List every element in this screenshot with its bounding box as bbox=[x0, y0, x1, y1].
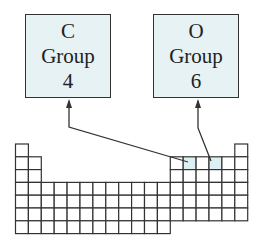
element-cell bbox=[170, 170, 183, 183]
periodic-table-diagram bbox=[0, 0, 262, 246]
element-cell bbox=[209, 195, 222, 208]
element-cell bbox=[80, 195, 93, 208]
element-cell bbox=[183, 195, 196, 208]
element-cell bbox=[106, 221, 119, 234]
element-cell bbox=[16, 182, 29, 195]
element-cell bbox=[67, 208, 80, 221]
oxygen-pointer-arrow bbox=[198, 101, 211, 161]
element-cell bbox=[209, 182, 222, 195]
element-cell bbox=[222, 182, 235, 195]
element-cell bbox=[170, 208, 183, 221]
element-cell bbox=[157, 195, 170, 208]
element-cell bbox=[235, 208, 248, 221]
element-cell bbox=[132, 195, 145, 208]
element-cell bbox=[132, 208, 145, 221]
element-cell bbox=[93, 182, 106, 195]
element-cell bbox=[196, 182, 209, 195]
element-cell bbox=[222, 208, 235, 221]
element-cell bbox=[157, 182, 170, 195]
element-cell bbox=[235, 182, 248, 195]
element-cell bbox=[67, 221, 80, 234]
element-cell bbox=[16, 195, 29, 208]
element-cell bbox=[157, 208, 170, 221]
element-cell bbox=[222, 157, 235, 170]
element-cell bbox=[132, 221, 145, 234]
element-cell bbox=[106, 182, 119, 195]
element-cell bbox=[235, 157, 248, 170]
element-cell bbox=[28, 157, 41, 170]
element-cell bbox=[157, 221, 170, 234]
element-cell bbox=[67, 182, 80, 195]
element-cell bbox=[16, 170, 29, 183]
element-cell bbox=[222, 195, 235, 208]
carbon-arrowhead-icon bbox=[66, 99, 72, 108]
element-cell bbox=[16, 221, 29, 234]
element-cell bbox=[28, 208, 41, 221]
element-cell bbox=[119, 221, 132, 234]
element-cell bbox=[16, 144, 29, 157]
element-cell bbox=[235, 195, 248, 208]
element-cell bbox=[106, 195, 119, 208]
element-cell bbox=[209, 170, 222, 183]
element-cell bbox=[80, 221, 93, 234]
element-cell bbox=[183, 170, 196, 183]
element-cell bbox=[41, 195, 54, 208]
periodic-table-grid bbox=[16, 144, 248, 234]
element-cell bbox=[145, 208, 158, 221]
element-cell bbox=[67, 195, 80, 208]
element-cell bbox=[132, 182, 145, 195]
element-cell bbox=[183, 208, 196, 221]
element-cell bbox=[54, 182, 67, 195]
highlighted-element-cell bbox=[183, 157, 196, 170]
element-cell bbox=[28, 221, 41, 234]
element-cell bbox=[106, 208, 119, 221]
element-cell bbox=[196, 208, 209, 221]
element-cell bbox=[93, 221, 106, 234]
element-cell bbox=[93, 208, 106, 221]
element-cell bbox=[170, 182, 183, 195]
element-cell bbox=[16, 157, 29, 170]
oxygen-arrowhead-icon bbox=[195, 99, 201, 108]
carbon-pointer-arrow bbox=[69, 101, 188, 162]
element-cell bbox=[145, 182, 158, 195]
element-cell bbox=[28, 182, 41, 195]
element-cell bbox=[145, 221, 158, 234]
element-cell bbox=[41, 208, 54, 221]
element-cell bbox=[196, 157, 209, 170]
element-cell bbox=[196, 195, 209, 208]
element-cell bbox=[119, 195, 132, 208]
element-cell bbox=[41, 221, 54, 234]
element-cell bbox=[28, 195, 41, 208]
element-cell bbox=[80, 208, 93, 221]
element-cell bbox=[170, 195, 183, 208]
element-cell bbox=[54, 208, 67, 221]
element-cell bbox=[54, 195, 67, 208]
element-cell bbox=[235, 144, 248, 157]
element-cell bbox=[41, 182, 54, 195]
element-cell bbox=[209, 208, 222, 221]
element-cell bbox=[54, 221, 67, 234]
element-cell bbox=[119, 208, 132, 221]
element-cell bbox=[145, 195, 158, 208]
element-cell bbox=[80, 182, 93, 195]
element-cell bbox=[183, 182, 196, 195]
highlighted-element-cell bbox=[209, 157, 222, 170]
element-cell bbox=[235, 170, 248, 183]
element-cell bbox=[196, 170, 209, 183]
element-cell bbox=[222, 170, 235, 183]
element-cell bbox=[28, 170, 41, 183]
element-cell bbox=[16, 208, 29, 221]
element-cell bbox=[119, 182, 132, 195]
element-cell bbox=[93, 195, 106, 208]
